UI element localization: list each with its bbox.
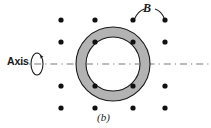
ring-inner-circle <box>86 37 140 91</box>
axis-label: Axis <box>7 56 29 67</box>
panel-label: (b) <box>97 112 110 123</box>
field-dot <box>58 105 63 110</box>
field-dot <box>162 83 167 88</box>
field-dot <box>162 105 167 110</box>
magnetic-field-label: B <box>143 2 151 14</box>
physics-figure-rotating-ring-in-magnetic-field: Axis B (b) <box>0 0 211 128</box>
field-dot <box>130 39 135 44</box>
field-dot <box>162 17 167 22</box>
field-dot <box>130 17 135 22</box>
field-dot <box>58 83 63 88</box>
field-dot <box>58 17 63 22</box>
field-dot <box>92 17 97 22</box>
field-dot <box>92 105 97 110</box>
figure-canvas <box>0 0 211 128</box>
field-dot <box>92 39 97 44</box>
b-leader-line-right <box>155 9 165 19</box>
field-dot <box>130 83 135 88</box>
field-dot <box>162 39 167 44</box>
field-dot <box>92 83 97 88</box>
field-dot <box>58 39 63 44</box>
field-dot <box>130 105 135 110</box>
